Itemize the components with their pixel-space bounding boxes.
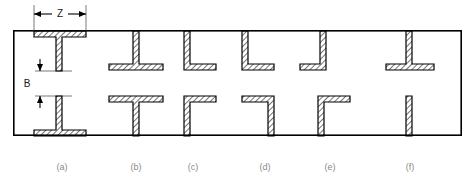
- caption-b: (b): [131, 162, 142, 172]
- caption-c: (c): [188, 162, 199, 172]
- figure-container: Z B: [0, 0, 473, 182]
- outer-frame: [14, 31, 461, 135]
- caption-f: (f): [406, 162, 415, 172]
- variant-f-bottom-member: [406, 96, 412, 136]
- dimension-z: Z: [34, 5, 86, 31]
- cross-section-diagram: Z B: [0, 0, 473, 182]
- caption-d: (d): [260, 162, 271, 172]
- dim-z-arrow-left: [34, 11, 41, 17]
- dim-b-label: B: [24, 78, 31, 89]
- caption-a: (a): [57, 162, 68, 172]
- caption-e: (e): [325, 162, 336, 172]
- dim-z-label: Z: [57, 8, 63, 19]
- dim-z-arrow-right: [79, 11, 86, 17]
